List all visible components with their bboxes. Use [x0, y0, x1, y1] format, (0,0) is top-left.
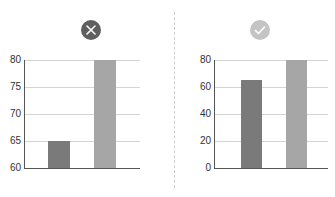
bar-a [241, 80, 262, 168]
zero-based-bar-chart: 020406080 [0, 0, 335, 197]
gridline [214, 60, 328, 61]
bar-b [286, 60, 307, 168]
gridline [214, 141, 328, 142]
y-tick-label: 0 [191, 163, 211, 173]
gridline [214, 87, 328, 88]
y-tick-label: 60 [191, 82, 211, 92]
y-axis [214, 60, 215, 169]
x-axis [214, 168, 328, 169]
y-tick-label: 20 [191, 136, 211, 146]
gridline [214, 114, 328, 115]
y-tick-label: 40 [191, 109, 211, 119]
y-tick-label: 80 [191, 55, 211, 65]
